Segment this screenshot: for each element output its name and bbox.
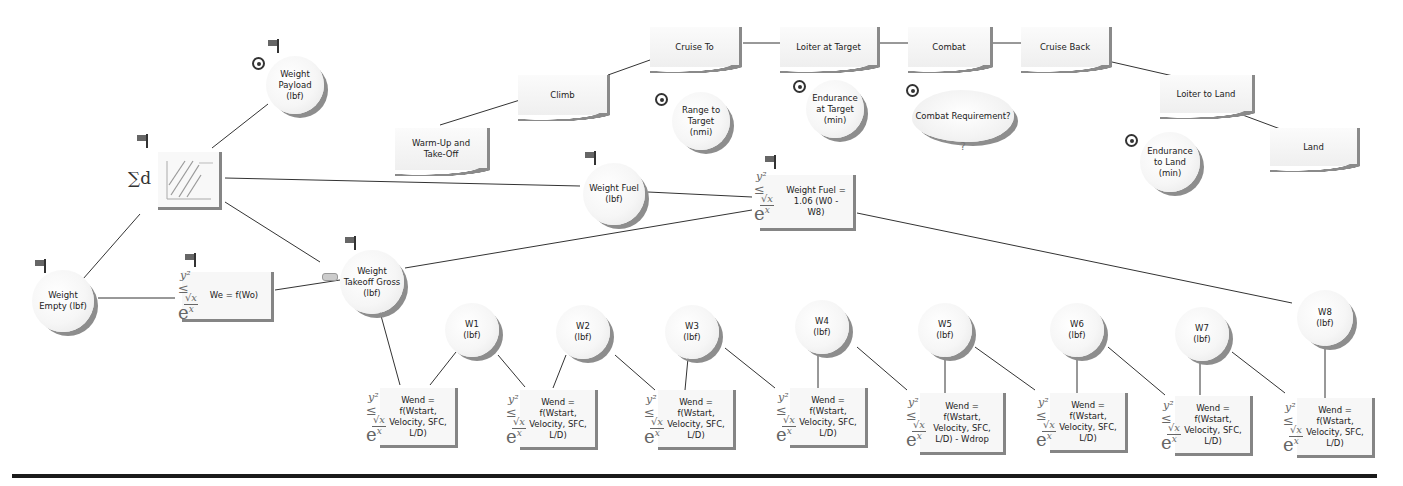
flag-icon [35, 258, 49, 272]
function-wend-1[interactable]: y²≤√xex Wend = f(Wstart, Velocity, SFC, … [380, 388, 458, 448]
function-label: We = f(Wo) [203, 290, 265, 301]
function-label: Wend = f(Wstart, Velocity, SFC, L/D) [665, 397, 727, 441]
input-endurance-to-land[interactable]: Endurance to Land (min) [1140, 132, 1200, 192]
target-icon [1125, 134, 1138, 147]
function-wend-2[interactable]: y²≤√xex Wend = f(Wstart, Velocity, SFC, … [520, 390, 598, 450]
target-icon [655, 93, 668, 106]
sum-node-graph[interactable] [158, 152, 222, 210]
function-label: Wend = f(Wstart, Velocity, SFC, L/D) [1304, 405, 1366, 449]
target-icon [906, 84, 919, 97]
node-label: W2 (lbf) [570, 321, 596, 343]
input-range-to-target[interactable]: Range to Target (nmi) [672, 92, 730, 150]
phase-label: Combat [932, 42, 965, 53]
variable-w4[interactable]: W4 (lbf) [795, 300, 849, 354]
equation-icon: y²≤√xex [642, 394, 668, 448]
target-icon [252, 57, 265, 70]
equation-icon: y²≤√xex [1159, 400, 1185, 454]
node-label: W3 (lbf) [679, 321, 705, 343]
variable-weight-takeoff-gross[interactable]: Weight Takeoff Gross (lbf) [340, 250, 404, 314]
equation-icon: y²≤√xex [1281, 402, 1307, 456]
function-wend-8[interactable]: y²≤√xex Wend = f(Wstart, Velocity, SFC, … [1297, 398, 1375, 458]
variable-w6[interactable]: W6 (lbf) [1050, 303, 1104, 357]
node-label: Range to Target (nmi) [679, 105, 723, 138]
function-label: Weight Fuel = 1.06 (W0 - W8) [785, 185, 847, 218]
input-weight-payload[interactable]: Weight Payload (lbf) [266, 56, 324, 114]
variable-w3[interactable]: W3 (lbf) [665, 305, 719, 359]
variable-w2[interactable]: W2 (lbf) [556, 305, 610, 359]
function-label: Wend = f(Wstart, Velocity, SFC, L/D) [1182, 403, 1244, 447]
node-label: W5 (lbf) [932, 319, 958, 341]
phase-land[interactable]: Land [1270, 128, 1360, 166]
equation-icon: y²≤√xex [504, 394, 530, 448]
phase-cruise-back[interactable]: Cruise Back [1021, 27, 1112, 67]
function-wend-7[interactable]: y²≤√xex Wend = f(Wstart, Velocity, SFC, … [1175, 396, 1253, 456]
equation-icon: y²≤√xex [364, 392, 390, 446]
hatched-graph-icon [163, 157, 215, 203]
function-label: Wend = f(Wstart, Velocity, SFC, L/D) [527, 397, 589, 441]
phase-label: Cruise To [675, 42, 714, 53]
sum-symbol: ∑d [128, 168, 151, 188]
variable-weight-fuel[interactable]: Weight Fuel (lbf) [583, 163, 645, 225]
input-combat-requirement[interactable]: Combat Requirement? [912, 90, 1014, 142]
node-label: W6 (lbf) [1064, 319, 1090, 341]
phase-label: Warm-Up and Take-Off [411, 138, 471, 160]
phase-loiter-at-target[interactable]: Loiter at Target [780, 27, 880, 67]
node-label: W8 (lbf) [1312, 307, 1338, 329]
influence-diagram-canvas: Warm-Up and Take-Off Climb Cruise To Loi… [0, 0, 1403, 486]
flag-icon [137, 133, 151, 147]
node-label: W1 (lbf) [459, 319, 485, 341]
flag-icon [268, 38, 282, 52]
variable-w8[interactable]: W8 (lbf) [1297, 290, 1353, 346]
phase-label: Land [1303, 142, 1324, 153]
input-endurance-at-target[interactable]: Endurance at Target (min) [806, 80, 864, 138]
variable-weight-empty[interactable]: Weight Empty (lbf) [32, 270, 94, 332]
node-label: Endurance to Land (min) [1145, 146, 1195, 179]
node-label: W4 (lbf) [809, 316, 835, 338]
function-label: Wend = f(Wstart, Velocity, SFC, L/D) [1057, 400, 1119, 444]
node-label: Combat Requirement? [915, 111, 1010, 122]
question-mark-icon: ? [960, 140, 966, 153]
phase-loiter-to-land[interactable]: Loiter to Land [1160, 75, 1255, 113]
node-label: Weight Empty (lbf) [34, 290, 92, 312]
function-label: Wend = f(Wstart, Velocity, SFC, L/D) [797, 395, 859, 439]
phase-label: Cruise Back [1040, 42, 1090, 53]
equation-icon: y²≤√xex [774, 392, 800, 446]
node-label: W7 (lbf) [1189, 323, 1215, 345]
function-label: Wend = f(Wstart, Velocity, SFC, L/D) [387, 395, 449, 439]
equation-icon: y²≤√xex [904, 397, 930, 451]
function-wend-3[interactable]: y²≤√xex Wend = f(Wstart, Velocity, SFC, … [658, 390, 736, 450]
equation-icon: y²≤√xex [752, 171, 778, 225]
function-wend-4[interactable]: y²≤√xex Wend = f(Wstart, Velocity, SFC, … [790, 388, 868, 448]
phase-climb[interactable]: Climb [518, 75, 610, 115]
node-label: Weight Takeoff Gross (lbf) [343, 266, 401, 299]
phase-label: Loiter to Land [1177, 89, 1236, 100]
phase-label: Loiter at Target [796, 42, 860, 53]
flag-icon [765, 154, 779, 168]
target-icon [793, 80, 806, 93]
variable-w7[interactable]: W7 (lbf) [1175, 307, 1229, 361]
phase-cruise-to[interactable]: Cruise To [650, 27, 742, 67]
function-we[interactable]: y²≤√xex We = f(Wo) [182, 272, 274, 322]
key-icon [322, 273, 338, 281]
phase-combat[interactable]: Combat [908, 27, 993, 67]
function-label: Wend = f(Wstart, Velocity, SFC, L/D) - W… [927, 401, 997, 445]
variable-w1[interactable]: W1 (lbf) [445, 303, 499, 357]
function-wend-5[interactable]: y²≤√xex Wend = f(Wstart, Velocity, SFC, … [920, 393, 1006, 455]
node-label: Weight Fuel (lbf) [588, 183, 640, 205]
phase-warmup-takeoff[interactable]: Warm-Up and Take-Off [395, 128, 490, 170]
equation-icon: y²≤√xex [1034, 397, 1060, 451]
equation-icon: y²≤√xex [176, 270, 202, 324]
function-wend-6[interactable]: y²≤√xex Wend = f(Wstart, Velocity, SFC, … [1050, 393, 1128, 453]
variable-w5[interactable]: W5 (lbf) [918, 303, 972, 357]
function-weight-fuel[interactable]: y²≤√xex Weight Fuel = 1.06 (W0 - W8) [760, 175, 856, 231]
node-label: Weight Payload (lbf) [272, 69, 318, 102]
phase-label: Climb [550, 90, 574, 101]
flag-icon [585, 150, 599, 164]
flag-icon [345, 235, 359, 249]
bottom-divider [12, 474, 1377, 478]
node-label: Endurance at Target (min) [810, 93, 860, 126]
flag-icon [185, 252, 199, 266]
